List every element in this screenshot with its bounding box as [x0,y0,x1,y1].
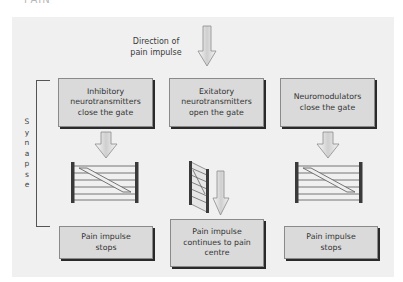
impulse-stops-box-right: Pain impulse stops [284,226,378,259]
synapse-letter: e [22,180,32,191]
neuromodulators-box: Neuromodulators close the gate [280,78,375,127]
synapse-letter: S [22,117,32,128]
synapse-letter: p [22,159,32,170]
exitatory-box: Exitatory neurotransmitters open the gat… [169,78,264,127]
down-arrow-icon [212,170,230,216]
synapse-letter: y [22,128,32,139]
inhibitory-box: Inhibitory neurotransmitters close the g… [58,78,153,127]
closed-gate-icon [295,160,363,204]
synapse-letter: n [22,138,32,149]
synapse-label: S y n a p s e [22,117,32,191]
synapse-bracket [36,80,50,227]
closed-gate-icon [71,160,139,204]
impulse-stops-box-left: Pain impulse stops [59,226,153,259]
direction-arrow-icon [197,25,217,67]
direction-label: Direction of pain impulse [116,36,196,58]
down-arrow-icon [316,131,340,159]
synapse-letter: a [22,149,32,160]
open-gate-icon [188,160,210,214]
page-title-fragment: PAIN [24,0,51,5]
impulse-continues-box: Pain impulse continues to pain centre [170,219,264,267]
down-arrow-icon [94,131,118,159]
synapse-letter: s [22,170,32,181]
